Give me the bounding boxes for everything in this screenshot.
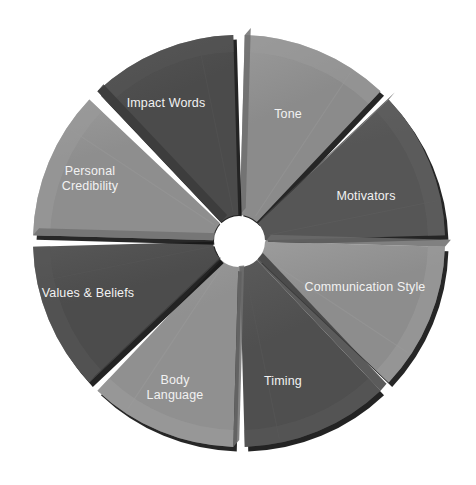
segment-label-line: Language — [147, 388, 204, 402]
segment-label-tone: Tone — [274, 107, 302, 121]
segment-label-line: Personal — [65, 164, 116, 178]
segment-label-line: Credibility — [62, 179, 119, 193]
segment-label-motivators: Motivators — [336, 189, 395, 203]
segment-label-communication-style: Communication Style — [305, 280, 426, 294]
segment-label-line: Values & Beliefs — [42, 286, 135, 300]
segment-label-line: Communication Style — [305, 280, 426, 294]
wheel-center-hub — [214, 216, 264, 266]
segmented-wheel-svg: ToneMotivatorsCommunication StyleTimingB… — [0, 0, 476, 485]
wheel-diagram-canvas: ToneMotivatorsCommunication StyleTimingB… — [0, 0, 476, 485]
segment-label-line: Impact Words — [127, 96, 206, 110]
segment-label-line: Motivators — [336, 189, 395, 203]
segment-label-line: Timing — [264, 374, 302, 388]
segment-label-values-beliefs: Values & Beliefs — [42, 286, 135, 300]
segment-label-line: Body — [160, 373, 190, 387]
segment-label-line: Tone — [274, 107, 302, 121]
segment-label-timing: Timing — [264, 374, 302, 388]
segment-label-personal-credibility: PersonalCredibility — [62, 164, 119, 193]
segment-label-impact-words: Impact Words — [127, 96, 206, 110]
